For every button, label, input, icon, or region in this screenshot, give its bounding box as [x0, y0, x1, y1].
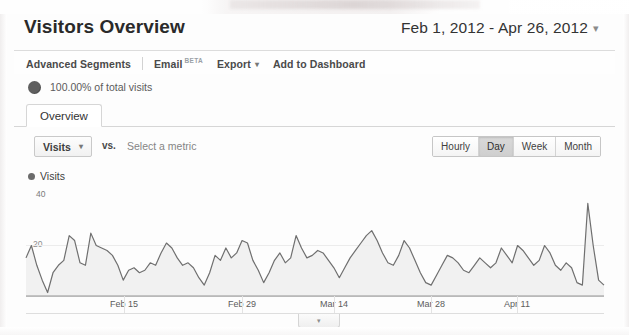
primary-metric-label: Visits [43, 141, 71, 153]
metric-selector-row: Visits ▾ vs. Select a metric Hourly Day … [14, 134, 615, 160]
x-axis-tick-mark [517, 296, 518, 313]
date-range-label: Feb 1, 2012 - Apr 26, 2012 [401, 19, 588, 36]
scan-edge-right [623, 14, 629, 335]
email-label: Email [154, 58, 183, 70]
beta-badge: BETA [185, 57, 203, 64]
scan-smudge [230, 0, 480, 9]
report-header: Visitors Overview Feb 1, 2012 - Apr 26, … [14, 16, 615, 48]
visits-timeseries-chart[interactable]: 40 20 [14, 186, 615, 301]
chart-plot-svg [14, 186, 615, 301]
chevron-down-icon: ▾ [593, 22, 599, 35]
chart-collapse-handle[interactable]: ▾ [298, 314, 340, 328]
pie-chart-icon [28, 81, 41, 94]
scan-artifact-top [0, 0, 629, 14]
segment-summary-row: 100.00% of total visits [14, 74, 615, 102]
legend-series-dot-icon [28, 173, 35, 180]
page-bottom-edge [0, 327, 629, 335]
granularity-hourly-button[interactable]: Hourly [433, 137, 479, 156]
tab-overview-label: Overview [40, 110, 88, 122]
export-button[interactable]: Export▾ [217, 58, 259, 70]
x-axis-tick-mark [334, 296, 335, 313]
page-title: Visitors Overview [24, 16, 185, 38]
chevron-down-icon: ▾ [255, 60, 259, 69]
add-to-dashboard-button[interactable]: Add to Dashboard [273, 58, 366, 70]
x-axis-tick-mark [242, 296, 243, 313]
granularity-week-button[interactable]: Week [514, 137, 556, 156]
date-range-selector[interactable]: Feb 1, 2012 - Apr 26, 2012▾ [401, 19, 599, 37]
scan-edge-left [0, 14, 7, 335]
toolbar-separator [142, 57, 143, 70]
tab-overview[interactable]: Overview [26, 104, 102, 127]
report-toolbar: Advanced Segments EmailBETA Export▾ Add … [14, 50, 615, 76]
report-tabstrip: Overview [14, 104, 615, 127]
legend-series-label: Visits [40, 170, 65, 182]
chevron-down-icon: ▾ [317, 317, 321, 324]
x-axis-tick-mark [431, 296, 432, 313]
segment-summary-label: 100.00% of total visits [50, 81, 152, 93]
email-button[interactable]: EmailBETA [154, 57, 203, 70]
vs-label: vs. [102, 140, 116, 151]
toolbar-items: Advanced Segments EmailBETA Export▾ Add … [26, 55, 366, 72]
advanced-segments-button[interactable]: Advanced Segments [26, 58, 131, 70]
chevron-down-icon: ▾ [79, 142, 83, 151]
granularity-day-button[interactable]: Day [479, 137, 514, 156]
x-axis-tick-mark [124, 296, 125, 313]
chart-legend: Visits [28, 170, 65, 182]
primary-metric-button[interactable]: Visits ▾ [34, 136, 92, 157]
export-label: Export [217, 58, 251, 70]
select-metric-button[interactable]: Select a metric [127, 140, 196, 152]
granularity-button-group: Hourly Day Week Month [432, 136, 601, 157]
analytics-visitors-overview-screen: Visitors Overview Feb 1, 2012 - Apr 26, … [0, 0, 629, 335]
granularity-month-button[interactable]: Month [556, 137, 600, 156]
